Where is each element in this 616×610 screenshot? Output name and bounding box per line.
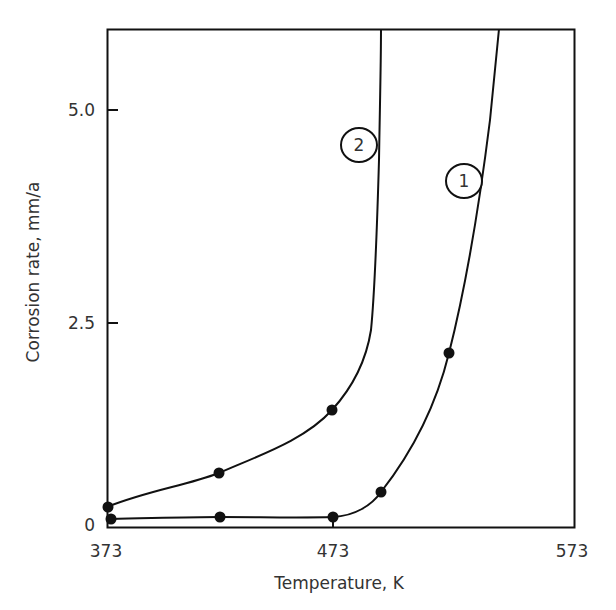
curve-2-label: 2 xyxy=(341,128,377,162)
curve-1-line xyxy=(110,29,499,519)
y-tick-label-0: 0 xyxy=(84,515,95,535)
curve-2-line xyxy=(107,29,381,507)
curve-2-point xyxy=(103,502,114,513)
x-axis-title: Temperature, K xyxy=(273,573,404,593)
curve-1-point xyxy=(106,514,117,525)
x-tick-label-473: 473 xyxy=(317,541,349,561)
curve-2-point xyxy=(327,405,338,416)
y-tick-label-5: 5.0 xyxy=(68,100,95,120)
curve-1-point xyxy=(215,512,226,523)
curve-1-label: 1 xyxy=(446,164,482,198)
chart: 5.0 2.5 0 373 473 573 Temperature, K Cor… xyxy=(0,0,616,610)
x-tick-label-573: 573 xyxy=(556,541,588,561)
y-axis-title: Corrosion rate, mm/a xyxy=(23,182,43,363)
svg-text:2: 2 xyxy=(354,135,365,155)
curve-1-point xyxy=(444,348,455,359)
svg-text:1: 1 xyxy=(459,171,470,191)
x-tick-label-373: 373 xyxy=(90,541,122,561)
y-tick-label-2-5: 2.5 xyxy=(68,313,95,333)
curve-1-point xyxy=(376,487,387,498)
plot-frame xyxy=(108,30,575,528)
curve-1-point xyxy=(328,512,339,523)
curve-2-point xyxy=(214,468,225,479)
